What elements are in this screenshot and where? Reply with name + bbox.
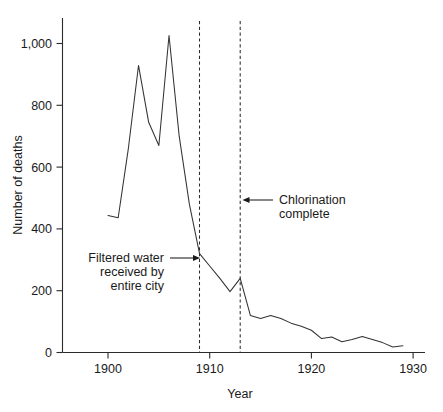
annotation-chlorination-line-1: Chlorination <box>279 193 346 207</box>
y-tick-label-400: 400 <box>31 222 52 236</box>
y-axis-ticks: 0 200 400 600 800 1,000 <box>21 37 63 360</box>
y-tick-label-1000: 1,000 <box>21 37 52 51</box>
y-tick-label-0: 0 <box>45 346 52 360</box>
annotation-chlorination-arrow-icon <box>243 197 250 203</box>
x-axis-title: Year <box>227 387 252 401</box>
series-line-number-of-deaths <box>108 35 403 346</box>
y-tick-label-600: 600 <box>31 161 52 175</box>
y-axis-title: Number of deaths <box>11 135 25 234</box>
y-tick-label-200: 200 <box>31 284 52 298</box>
y-tick-label-800: 800 <box>31 99 52 113</box>
annotation-filtered-water: Filtered water received by entire city <box>88 251 200 293</box>
annotation-chlorination-line-2: complete <box>279 207 330 221</box>
annotation-filtered-water-line-1: Filtered water <box>88 251 164 265</box>
x-axis-ticks: 1900 1910 1920 1930 <box>94 353 427 377</box>
x-tick-label-1920: 1920 <box>297 362 325 376</box>
x-tick-label-1930: 1930 <box>399 362 427 376</box>
line-chart: 0 200 400 600 800 1,000 1900 1910 1920 1… <box>0 0 443 412</box>
x-tick-label-1910: 1910 <box>196 362 224 376</box>
event-lines <box>200 21 241 353</box>
annotation-chlorination-complete: Chlorination complete <box>243 193 346 221</box>
annotation-filtered-water-line-2: received by <box>100 265 165 279</box>
x-tick-label-1900: 1900 <box>94 362 122 376</box>
annotation-filtered-water-line-3: entire city <box>111 279 165 293</box>
chart-container: 0 200 400 600 800 1,000 1900 1910 1920 1… <box>0 0 443 412</box>
annotation-filtered-water-arrow-icon <box>193 255 200 261</box>
chart-axes <box>63 18 426 353</box>
